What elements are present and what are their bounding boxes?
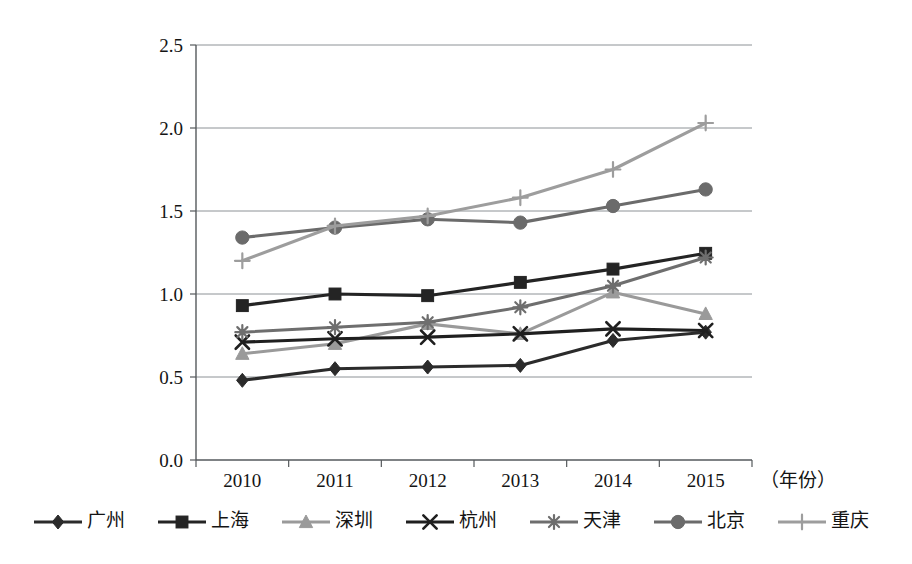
chart-legend: 广州上海深圳杭州天津北京重庆 <box>34 510 869 531</box>
y-tick-label: 0.5 <box>159 367 183 388</box>
x-tick-labels: 201020112012201320142015（年份） <box>223 470 836 491</box>
circle-marker <box>699 183 712 196</box>
plus-marker <box>606 162 621 177</box>
data-point-天津-2013 <box>513 300 527 314</box>
legend-item-重庆[interactable]: 重庆 <box>778 510 869 531</box>
legend-marker-上海 <box>176 516 188 528</box>
data-point-北京-2013 <box>514 216 527 229</box>
series-line-深圳 <box>242 292 705 353</box>
legend-item-深圳[interactable]: 深圳 <box>282 510 373 531</box>
x-tick-label-2010: 2010 <box>223 470 261 491</box>
y-tick-label: 2.0 <box>159 118 183 139</box>
square-marker <box>176 516 188 528</box>
square-marker <box>607 263 619 275</box>
asterisk-marker <box>513 300 527 314</box>
data-point-北京-2010 <box>236 231 249 244</box>
legend-label-天津: 天津 <box>583 510 621 531</box>
square-marker <box>329 288 341 300</box>
data-point-重庆-2013 <box>513 190 528 205</box>
asterisk-marker <box>421 315 435 329</box>
diamond-marker <box>52 515 63 529</box>
diamond-marker <box>329 362 340 376</box>
series-杭州 <box>236 322 713 349</box>
data-point-广州-2012 <box>422 360 433 374</box>
circle-marker <box>514 216 527 229</box>
y-tick-labels: 0.00.51.01.52.02.5 <box>159 35 183 471</box>
x-tick-label-2014: 2014 <box>594 470 633 491</box>
series-line-杭州 <box>242 329 705 342</box>
grid-lines <box>196 45 752 377</box>
legend-label-重庆: 重庆 <box>831 510 869 531</box>
plus-marker <box>513 190 528 205</box>
legend-marker-北京 <box>671 515 684 528</box>
data-point-重庆-2010 <box>235 253 250 268</box>
data-series-group <box>235 116 713 388</box>
plus-marker <box>795 515 810 530</box>
x-axis <box>196 460 752 467</box>
legend-item-广州[interactable]: 广州 <box>34 510 125 531</box>
data-point-北京-2014 <box>606 199 619 212</box>
data-point-广州-2014 <box>607 333 618 347</box>
x-tick-label-2013: 2013 <box>501 470 539 491</box>
asterisk-marker <box>328 320 342 334</box>
plus-marker <box>235 253 250 268</box>
y-axis <box>190 45 196 460</box>
data-point-天津-2015 <box>699 250 713 264</box>
asterisk-marker <box>547 515 561 529</box>
diamond-marker <box>422 360 433 374</box>
line-chart: 0.00.51.01.52.02.5 201020112012201320142… <box>0 0 912 564</box>
diamond-marker <box>237 373 248 387</box>
legend-marker-重庆 <box>795 515 810 530</box>
x-tick-label-2015: 2015 <box>687 470 725 491</box>
data-point-广州-2011 <box>329 362 340 376</box>
data-point-重庆-2014 <box>606 162 621 177</box>
legend-marker-广州 <box>52 515 63 529</box>
square-marker <box>236 300 248 312</box>
data-point-上海-2012 <box>422 290 434 302</box>
y-tick-label: 1.0 <box>159 284 183 305</box>
legend-marker-天津 <box>547 515 561 529</box>
legend-label-广州: 广州 <box>87 510 125 531</box>
circle-marker <box>606 199 619 212</box>
y-tick-label: 1.5 <box>159 201 183 222</box>
diamond-marker <box>515 358 526 372</box>
legend-item-北京[interactable]: 北京 <box>654 510 745 531</box>
data-point-天津-2010 <box>235 325 249 339</box>
series-上海 <box>236 247 711 311</box>
legend-item-上海[interactable]: 上海 <box>158 510 249 531</box>
data-point-广州-2013 <box>515 358 526 372</box>
series-重庆 <box>235 116 713 268</box>
data-point-北京-2015 <box>699 183 712 196</box>
series-line-北京 <box>242 189 705 237</box>
circle-marker <box>671 515 684 528</box>
legend-item-杭州[interactable]: 杭州 <box>406 510 497 531</box>
y-tick-label: 2.5 <box>159 35 183 56</box>
data-point-上海-2011 <box>329 288 341 300</box>
square-marker <box>422 290 434 302</box>
legend-label-北京: 北京 <box>707 510 745 531</box>
y-tick-label: 0.0 <box>159 450 183 471</box>
legend-label-上海: 上海 <box>211 510 249 531</box>
legend-label-深圳: 深圳 <box>335 510 373 531</box>
x-axis-unit-label: （年份） <box>760 470 836 491</box>
legend-label-杭州: 杭州 <box>459 510 497 531</box>
data-point-天津-2011 <box>328 320 342 334</box>
diamond-marker <box>607 333 618 347</box>
x-tick-label-2012: 2012 <box>409 470 447 491</box>
circle-marker <box>236 231 249 244</box>
data-point-上海-2014 <box>607 263 619 275</box>
data-point-上海-2010 <box>236 300 248 312</box>
x-tick-label-2011: 2011 <box>316 470 353 491</box>
data-point-广州-2010 <box>237 373 248 387</box>
asterisk-marker <box>606 279 620 293</box>
series-line-重庆 <box>242 123 705 261</box>
legend-item-天津[interactable]: 天津 <box>530 510 621 531</box>
series-line-天津 <box>242 257 705 332</box>
square-marker <box>514 276 526 288</box>
asterisk-marker <box>235 325 249 339</box>
data-point-天津-2012 <box>421 315 435 329</box>
chart-canvas: 0.00.51.01.52.02.5 201020112012201320142… <box>0 0 912 564</box>
data-point-天津-2014 <box>606 279 620 293</box>
data-point-上海-2013 <box>514 276 526 288</box>
asterisk-marker <box>699 250 713 264</box>
